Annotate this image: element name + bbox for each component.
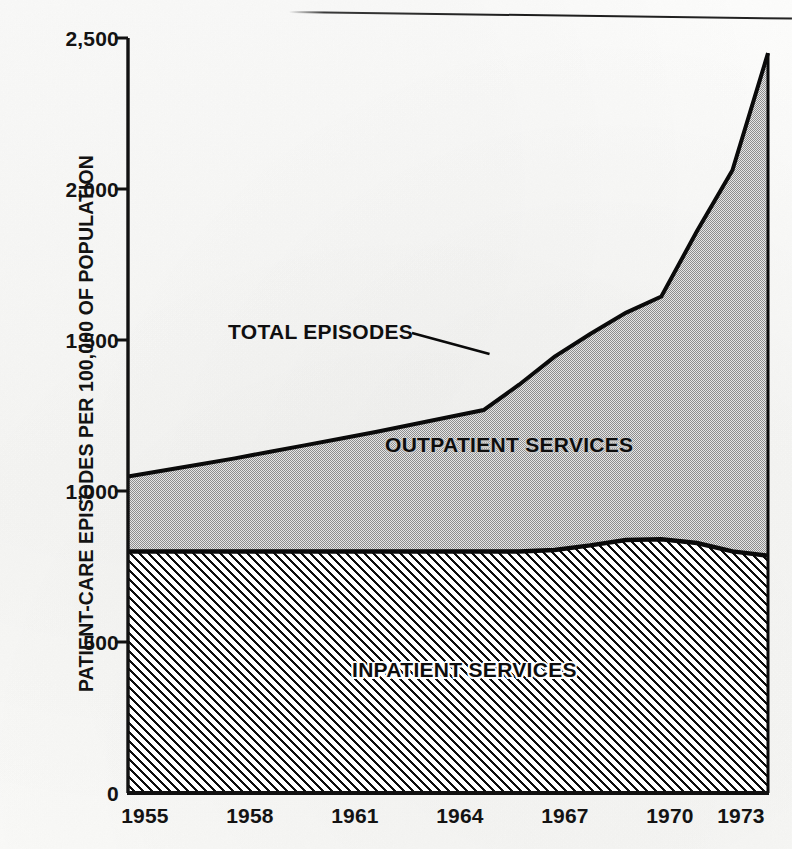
y-tick-label-2500: 2,500 [14, 27, 119, 51]
stacked-area-plot [0, 0, 792, 849]
total-episodes-label: TOTAL EPISODES [228, 320, 413, 344]
outpatient-services-label: OUTPATIENT SERVICES [385, 433, 633, 457]
x-tick-label-1964: 1964 [419, 804, 501, 828]
y-tick-label-2000: 2,000 [14, 178, 119, 202]
y-tick-label-1000: 1,000 [14, 480, 119, 504]
x-tick-label-1973: 1973 [700, 804, 782, 828]
x-tick-label-1961: 1961 [314, 804, 396, 828]
y-tick-label-0: 0 [14, 782, 119, 806]
total-episodes-leader-line [412, 333, 490, 354]
chart-figure: PATIENT-CARE EPISODES PER 100,000 OF POP… [0, 0, 792, 849]
x-tick-label-1970: 1970 [629, 804, 711, 828]
x-tick-label-1967: 1967 [524, 804, 606, 828]
outpatient-services-area [128, 53, 768, 556]
inpatient-services-label: INPATIENT SERVICES [352, 658, 577, 682]
y-tick-label-1500: 1,500 [14, 329, 119, 353]
y-axis-tick-marks [115, 38, 128, 793]
x-tick-label-1955: 1955 [104, 804, 186, 828]
y-tick-label-500: 500 [14, 631, 119, 655]
x-tick-label-1958: 1958 [209, 804, 291, 828]
